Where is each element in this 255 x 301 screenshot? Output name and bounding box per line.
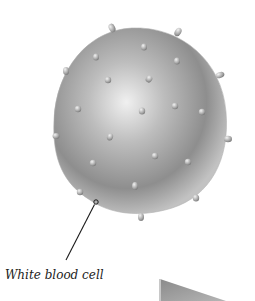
cell-body <box>54 28 227 214</box>
white-blood-cell-diagram <box>0 0 255 301</box>
label-leader-line <box>66 200 98 260</box>
partial-shape <box>160 279 226 301</box>
white-blood-cell-label: White blood cell <box>5 268 104 282</box>
